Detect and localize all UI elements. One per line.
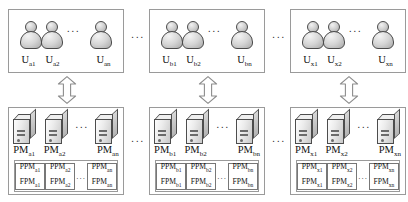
server-slot [381,134,389,136]
server-led [49,139,52,142]
machine-label-base: PM [325,144,340,155]
fpm-sub: a1 [35,182,40,188]
machine-label-row-b: PMb1 PMb2 PMbn [150,144,264,159]
fpm-base: FPM [20,177,35,186]
ppm-sub: bn [248,167,254,173]
machine-label-sub: x2 [341,151,348,159]
server-front-face [236,119,253,144]
fpm-base: FPM [50,177,65,186]
user-ellipsis-b: ... [206,22,223,34]
server-led [190,139,193,142]
machine-icon-row-b: ... [150,112,264,144]
user-label-bn: Ubn [231,54,258,68]
machine-entry-xn [373,114,405,144]
machine-label-bn: PMbn [234,144,264,158]
bidirectional-arrow-a [57,76,77,104]
ppm-base: PPM [50,162,65,171]
ppm-label: PPMb1 [161,161,182,176]
user-label-x1: Ux1 [297,54,324,68]
server-led [99,139,102,142]
user-ellipsis-x: ... [347,22,364,34]
server-slot [158,130,166,132]
datacenter-group-x: ... Ux1 Ux2 Uxn [290,0,408,202]
module-box-x2: PPMx2 FPMx2 [327,163,357,190]
user-entry-bn [229,20,255,50]
ppm-base: PPM [161,162,176,171]
bidirectional-arrow-x [339,76,359,104]
ppm-base: PPM [332,162,347,171]
machine-label-base: PM [13,144,28,155]
server-front-face [295,119,312,144]
machine-label-sub: x1 [310,151,317,159]
user-label-an: Uan [90,54,117,68]
user-label-a2: Ua2 [39,54,66,68]
machine-group-box-a: ... PMa1 [8,107,124,195]
user-label-x2: Ux2 [321,54,348,68]
user-label-xn: Uxn [372,54,399,68]
machine-label-sub: b1 [169,151,176,159]
server-slot [331,134,339,136]
module-container-a: PPMa1 FPMa1 PPMa2 FPMa2 ... PPMan FPMan [14,160,118,192]
machine-label-base: PM [184,144,199,155]
server-side-face [312,109,318,139]
server-slot [99,130,107,132]
server-slot [17,134,25,136]
user-label-a1: Ua1 [15,54,42,68]
ppm-sub: x2 [347,167,353,173]
server-slot [49,134,57,136]
user-label-sub: a1 [29,60,36,68]
ppm-label: PPMan [92,161,112,176]
ppm-label: PPMa1 [20,161,40,176]
user-icon [302,20,324,50]
user-body-shape [41,31,63,49]
module-container-x: PPMx1 FPMx1 PPMx2 FPMx2 ... PPMxn FPMxn [296,160,400,192]
fpm-base: FPM [92,177,107,186]
user-label-b2: Ub2 [180,54,207,68]
machine-entry-b1 [150,114,182,144]
server-front-face [186,119,203,144]
group-separator-bottom-2: ... [272,132,286,144]
ppm-label: PPMa2 [50,161,70,176]
user-entry-b2 [180,20,206,50]
server-front-face [154,119,171,144]
fpm-sub: x1 [317,182,323,188]
machine-label-base: PM [295,144,310,155]
fpm-label: FPMb1 [161,176,182,191]
ppm-label: PPMxn [374,161,395,176]
user-label-base: U [186,54,194,65]
server-front-face [377,119,394,144]
machine-label-row-x: PMx1 PMx2 PMxn [291,144,405,159]
user-label-sub: xn [386,60,393,68]
fpm-label: FPMxn [374,176,395,191]
user-label-base: U [96,54,104,65]
user-entry-xn [370,20,396,50]
fpm-sub: b1 [176,182,182,188]
server-icon [327,114,351,144]
datacenter-group-a: ... Ua1 Ua2 Uan [8,0,126,202]
ppm-label: PPMbn [233,161,254,176]
ppm-sub: x1 [317,167,323,173]
machine-ellipsis-a: ... [73,118,90,130]
server-icon [377,114,401,144]
machine-label-base: PM [44,144,59,155]
group-separator-top-1: ... [131,28,145,40]
server-led [299,139,302,142]
machine-label-sub: xn [394,151,401,159]
ppm-sub: an [107,167,112,173]
module-box-a1: PPMa1 FPMa1 [15,163,45,190]
server-led [331,139,334,142]
fpm-base: FPM [191,177,206,186]
fpm-sub: xn [389,182,395,188]
ppm-sub: b1 [176,167,182,173]
fpm-sub: bn [248,182,254,188]
fpm-label: FPMb2 [191,176,212,191]
module-ellipsis-x: ... [357,172,369,181]
ppm-sub: b2 [206,167,212,173]
user-group-box-b: ... Ub1 Ub2 Ubn [149,9,265,73]
server-icon [45,114,69,144]
server-side-face [62,109,68,139]
server-side-face [203,109,209,139]
machine-label-base: PM [238,144,253,155]
server-led [240,139,243,142]
server-slot [381,130,389,132]
